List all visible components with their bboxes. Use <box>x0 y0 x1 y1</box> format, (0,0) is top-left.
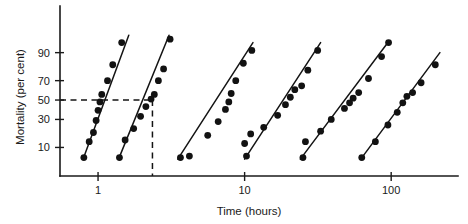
y-tick-label: 90 <box>38 47 50 59</box>
data-point-series-4 <box>298 82 305 89</box>
data-point-series-3 <box>248 47 255 54</box>
data-point-series-2 <box>130 125 137 132</box>
data-point-series-5 <box>300 154 307 161</box>
y-tick-label: 70 <box>38 75 50 87</box>
x-tick-label: 10 <box>238 184 250 196</box>
regression-line-series-3 <box>178 43 253 160</box>
data-point-series-4 <box>241 140 248 147</box>
data-point-series-6 <box>358 154 365 161</box>
regression-line-series-4 <box>245 43 321 160</box>
data-point-series-1 <box>98 91 105 98</box>
data-point-series-4 <box>282 101 289 108</box>
data-point-series-3 <box>228 90 235 97</box>
data-point-series-4 <box>274 112 281 119</box>
data-point-series-2 <box>142 103 149 110</box>
data-point-series-6 <box>409 89 416 96</box>
data-point-series-5 <box>378 53 385 60</box>
data-point-series-1 <box>93 117 100 124</box>
data-point-series-2 <box>167 36 174 43</box>
data-point-series-4 <box>287 94 294 101</box>
y-axis-title: Mortality (per cent) <box>14 49 26 145</box>
data-point-series-2 <box>160 66 167 73</box>
data-points-group <box>80 36 438 161</box>
data-point-series-6 <box>432 61 439 68</box>
y-tick-label: 50 <box>38 94 50 106</box>
data-point-series-5 <box>365 75 372 82</box>
data-point-series-5 <box>328 116 335 123</box>
data-point-series-6 <box>385 122 392 129</box>
data-point-series-3 <box>204 132 211 139</box>
x-tick-label: 1 <box>95 184 101 196</box>
data-point-series-3 <box>215 118 222 125</box>
data-point-series-4 <box>247 131 254 138</box>
data-point-series-5 <box>302 138 309 145</box>
y-tick-label: 10 <box>38 141 50 153</box>
data-point-series-4 <box>260 124 267 131</box>
data-point-series-3 <box>232 77 239 84</box>
data-point-series-6 <box>394 109 401 116</box>
regression-lines-group <box>83 35 440 159</box>
data-point-series-5 <box>341 105 348 112</box>
chart-figure: 1030507090 110100 Time (hours) Mortality… <box>0 0 468 224</box>
y-tick-label: 30 <box>38 113 50 125</box>
data-point-series-1 <box>104 77 111 84</box>
data-point-series-4 <box>291 86 298 93</box>
mortality-time-plot: 1030507090 110100 Time (hours) Mortality… <box>0 0 468 224</box>
data-point-series-4 <box>314 47 321 54</box>
x-axis-title: Time (hours) <box>217 205 282 217</box>
data-point-series-5 <box>355 89 362 96</box>
data-point-series-2 <box>116 154 123 161</box>
data-point-series-2 <box>151 91 158 98</box>
data-point-series-3 <box>177 154 184 161</box>
x-tick-label: 100 <box>382 184 400 196</box>
data-point-series-6 <box>372 138 379 145</box>
data-point-series-2 <box>137 113 144 120</box>
data-point-series-3 <box>225 99 232 106</box>
data-point-series-5 <box>350 95 357 102</box>
data-point-series-1 <box>90 129 97 136</box>
data-point-series-5 <box>317 128 324 135</box>
data-point-series-6 <box>399 99 406 106</box>
data-point-series-4 <box>304 67 311 74</box>
data-point-series-3 <box>186 153 193 160</box>
data-point-series-1 <box>80 154 87 161</box>
data-point-series-2 <box>122 137 129 144</box>
data-point-series-1 <box>109 61 116 68</box>
data-point-series-3 <box>240 60 247 67</box>
data-point-series-4 <box>243 153 250 160</box>
data-point-series-5 <box>385 39 392 46</box>
data-point-series-6 <box>403 93 410 100</box>
data-point-series-1 <box>97 99 104 106</box>
data-point-series-1 <box>118 39 125 46</box>
data-point-series-2 <box>155 77 162 84</box>
data-point-series-6 <box>418 79 425 86</box>
data-point-series-3 <box>222 106 229 113</box>
data-point-series-1 <box>95 107 102 114</box>
data-point-series-1 <box>86 138 93 145</box>
